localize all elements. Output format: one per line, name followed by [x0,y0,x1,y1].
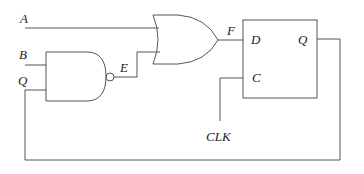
label-f: F [227,24,235,37]
label-b: B [19,48,27,61]
label-c: C [252,71,261,84]
label-q-output: Q [298,33,307,46]
circuit-wires [0,0,364,174]
logic-circuit-diagram: A B Q E F D Q C CLK [0,0,364,174]
label-clk: CLK [206,130,231,143]
or-gate [153,15,218,64]
label-a: A [20,12,28,25]
nand-bubble [106,73,114,81]
label-d: D [251,33,260,46]
label-q-input: Q [18,74,27,87]
label-e: E [120,61,128,74]
nand-gate [46,52,106,101]
wire-clk [220,78,243,121]
wire-q-feedback [25,39,340,160]
